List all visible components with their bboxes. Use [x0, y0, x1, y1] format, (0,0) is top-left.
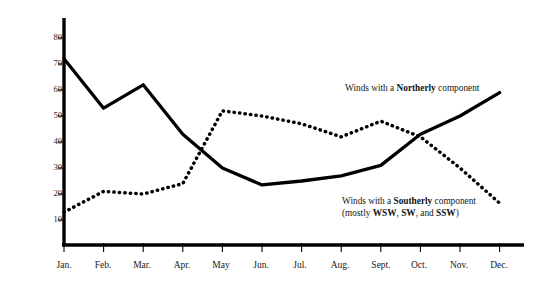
axis-group — [58, 18, 524, 252]
series-line-southerly — [64, 111, 500, 212]
chart-figure: Percentage of Observations 80 70 60 50 4… — [0, 0, 549, 292]
series-line-northerly — [64, 59, 500, 185]
plot-area — [0, 0, 549, 292]
